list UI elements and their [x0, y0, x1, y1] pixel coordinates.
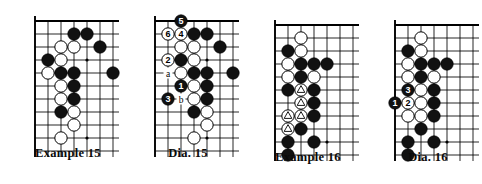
- white-stone: [201, 106, 213, 118]
- move-number-3: 3: [405, 85, 410, 95]
- white-stone: [415, 97, 427, 109]
- star-point: [445, 140, 448, 143]
- black-stone: [94, 41, 106, 53]
- black-stone: [428, 58, 440, 70]
- black-stone: [81, 28, 93, 40]
- caption-dia-16: Dia. 16: [373, 150, 482, 165]
- white-stone: [415, 45, 427, 57]
- white-stone: [282, 71, 294, 83]
- black-stone: [282, 84, 294, 96]
- black-stone: [441, 58, 453, 70]
- black-stone: [282, 136, 294, 148]
- move-number-3: 3: [165, 94, 170, 104]
- white-stone: [55, 54, 67, 66]
- white-stone: [415, 32, 427, 44]
- star-point: [205, 136, 208, 139]
- white-stone: [175, 41, 187, 53]
- move-number-1: 1: [392, 98, 397, 108]
- black-stone: [321, 58, 333, 70]
- black-stone: [402, 136, 414, 148]
- black-stone: [308, 110, 320, 122]
- black-stone: [55, 106, 67, 118]
- black-stone: [402, 45, 414, 57]
- black-stone: [227, 67, 239, 79]
- white-stone: [188, 54, 200, 66]
- white-stone: [402, 71, 414, 83]
- caption-example-15: Example 15: [13, 146, 123, 161]
- star-point: [85, 58, 88, 61]
- star-point: [325, 140, 328, 143]
- move-number-5: 5: [178, 16, 183, 26]
- black-stone: [42, 54, 54, 66]
- white-stone: [55, 132, 67, 144]
- caption-example-16: Example 16: [253, 150, 363, 165]
- white-stone: [188, 80, 200, 92]
- white-stone: [201, 119, 213, 131]
- white-stone: [415, 110, 427, 122]
- star-point: [205, 58, 208, 61]
- go-board-example-15[interactable]: [28, 14, 120, 158]
- black-stone: [55, 67, 67, 79]
- white-stone: [402, 58, 414, 70]
- move-number-6: 6: [165, 29, 170, 39]
- white-stone: [402, 110, 414, 122]
- go-board-dia-16[interactable]: 312: [388, 18, 480, 162]
- black-stone: [415, 71, 427, 83]
- board-group-example-16: Example 16: [268, 18, 360, 162]
- black-stone: [428, 84, 440, 96]
- white-stone: [188, 93, 200, 105]
- black-stone: [308, 84, 320, 96]
- white-stone: [188, 132, 200, 144]
- black-stone: [428, 97, 440, 109]
- black-stone: [188, 67, 200, 79]
- black-stone: [295, 123, 307, 135]
- white-stone: [42, 67, 54, 79]
- white-stone: [68, 119, 80, 131]
- white-stone: [68, 106, 80, 118]
- white-stone: [55, 41, 67, 53]
- black-stone: [188, 106, 200, 118]
- board-group-example-15: Example 15: [28, 14, 120, 158]
- star-point: [85, 136, 88, 139]
- black-stone: [282, 45, 294, 57]
- black-stone: [68, 28, 80, 40]
- black-stone: [107, 67, 119, 79]
- black-stone: [295, 58, 307, 70]
- black-stone: [68, 67, 80, 79]
- go-board-example-16[interactable]: [268, 18, 360, 162]
- black-stone: [201, 67, 213, 79]
- black-stone: [188, 28, 200, 40]
- black-stone: [201, 80, 213, 92]
- white-stone: [308, 71, 320, 83]
- black-stone: [308, 58, 320, 70]
- black-stone: [428, 110, 440, 122]
- black-stone: [201, 93, 213, 105]
- white-stone: [282, 58, 294, 70]
- diagram-sheet: Example 15ab564213Dia. 15Example 16312Di…: [0, 0, 482, 184]
- white-stone: [415, 84, 427, 96]
- black-stone: [295, 71, 307, 83]
- board-group-dia-15: ab564213Dia. 15: [148, 14, 240, 158]
- caption-dia-15: Dia. 15: [133, 146, 243, 161]
- black-stone: [68, 93, 80, 105]
- board-group-dia-16: 312Dia. 16: [388, 18, 480, 162]
- white-stone: [188, 41, 200, 53]
- white-stone: [295, 45, 307, 57]
- white-stone: [55, 80, 67, 92]
- go-board-dia-15[interactable]: ab564213: [148, 14, 240, 158]
- move-number-4: 4: [178, 29, 183, 39]
- move-number-2: 2: [165, 55, 170, 65]
- black-stone: [214, 41, 226, 53]
- black-stone: [175, 54, 187, 66]
- point-label-b: b: [179, 95, 184, 105]
- white-stone: [428, 71, 440, 83]
- white-stone: [295, 32, 307, 44]
- black-stone: [308, 136, 320, 148]
- black-stone: [415, 123, 427, 135]
- black-stone: [428, 136, 440, 148]
- white-stone: [68, 41, 80, 53]
- black-stone: [415, 58, 427, 70]
- black-stone: [201, 28, 213, 40]
- move-number-2: 2: [405, 98, 410, 108]
- white-stone: [175, 67, 187, 79]
